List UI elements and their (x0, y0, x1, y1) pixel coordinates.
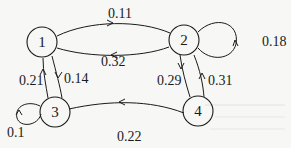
state-transition-diagram: 0.11 0.32 0.18 0.14 0.21 0.29 0.31 0.22 (0, 0, 291, 148)
edge-4-to-2: 0.31 (194, 55, 233, 97)
node-label: 3 (51, 104, 59, 120)
arrow-icon (119, 99, 125, 105)
node-2: 2 (169, 25, 199, 55)
edge-4-to-3: 0.22 (69, 99, 184, 144)
edge-2-to-4: 0.29 (157, 55, 190, 97)
node-label: 1 (38, 34, 46, 50)
node-1: 1 (27, 27, 57, 57)
edge-3-to-3: 0.1 (7, 104, 41, 140)
edge-1-to-3: 0.14 (52, 56, 89, 98)
edge-3-to-1: 0.21 (19, 58, 48, 98)
node-label: 2 (180, 32, 188, 48)
edge-label: 0.18 (262, 34, 287, 49)
edge-label: 0.31 (208, 73, 233, 88)
edge-label: 0.29 (157, 73, 182, 88)
node-label: 4 (194, 103, 202, 119)
edge-label: 0.22 (117, 129, 142, 144)
node-3: 3 (40, 97, 70, 127)
background-texture (205, 104, 285, 130)
edge-label: 0.32 (101, 54, 126, 69)
edge-label: 0.11 (108, 6, 132, 21)
edge-1-to-2: 0.11 (57, 6, 170, 36)
edge-2-to-1: 0.32 (57, 47, 169, 69)
edge-label: 0.14 (64, 71, 89, 86)
edge-label: 0.1 (7, 125, 25, 140)
node-4: 4 (183, 96, 213, 126)
edge-2-to-2: 0.18 (198, 23, 287, 58)
edge-label: 0.21 (19, 73, 44, 88)
